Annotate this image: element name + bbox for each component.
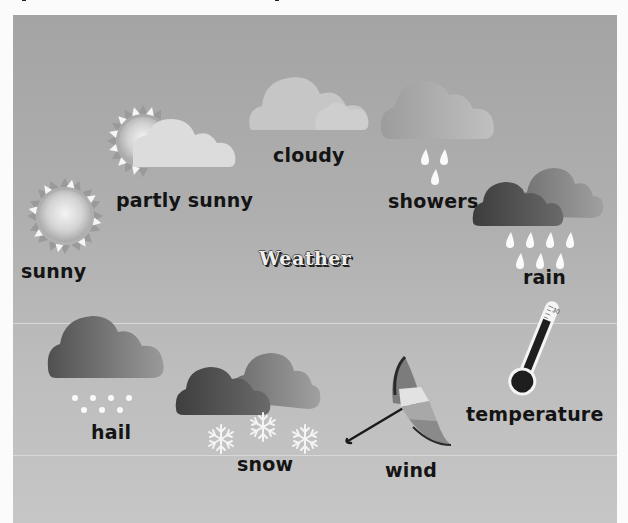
- rain-icon: [471, 160, 606, 270]
- snow-icon: [174, 351, 324, 466]
- label-rain: rain: [523, 266, 566, 288]
- label-showers: showers: [388, 190, 478, 212]
- label-cloudy: cloudy: [273, 144, 345, 166]
- weather-panel: Weather: [13, 15, 617, 523]
- weather-title: Weather: [259, 247, 351, 269]
- label-hail: hail: [91, 421, 131, 443]
- label-wind: wind: [385, 459, 437, 481]
- label-sunny: sunny: [21, 260, 86, 282]
- label-temperature: temperature: [466, 403, 604, 425]
- cloud-icon: [246, 70, 376, 142]
- cropped-text-fragment: [22, 0, 26, 1]
- thermometer-icon: 30: [493, 297, 563, 397]
- label-partly-sunny: partly sunny: [116, 189, 253, 211]
- umbrella-icon: [343, 355, 453, 455]
- hail-icon: [46, 312, 171, 412]
- label-snow: snow: [237, 453, 293, 475]
- sun-icon: [27, 178, 103, 254]
- cropped-text-fragment: [275, 0, 279, 1]
- partly-sunny-icon: [107, 105, 247, 185]
